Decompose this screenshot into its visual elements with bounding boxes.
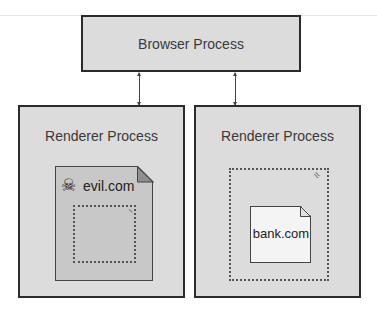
skull-crossbones-icon: ☠	[61, 177, 76, 194]
browser-process-box: Browser Process	[81, 15, 301, 72]
ipc-arrow-left	[139, 73, 140, 105]
evil-document-label: evil.com	[83, 178, 134, 194]
page-fold-icon	[300, 206, 311, 217]
renderer-process-box-bank: Renderer Process ≈ bank.com	[194, 105, 361, 298]
page-fold-icon	[137, 166, 154, 183]
renderer-process-box-evil: Renderer Process ☠ evil.com ~	[18, 105, 185, 298]
bank-document-label: bank.com	[251, 226, 311, 241]
browser-process-label: Browser Process	[83, 36, 299, 52]
renderer-process-label: Renderer Process	[196, 128, 359, 144]
renderer-process-label: Renderer Process	[20, 128, 183, 144]
ipc-arrow-right	[235, 73, 236, 105]
